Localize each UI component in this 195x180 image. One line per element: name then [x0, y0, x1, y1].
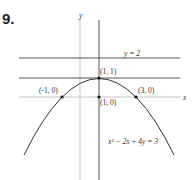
point-3-0	[134, 95, 137, 98]
point-neg1-0	[60, 95, 63, 98]
graph: y x y = 2 (1, 1) (-1, 0) (1, 0) (3, 0) x…	[0, 0, 195, 180]
vertex-point	[97, 76, 100, 79]
point-label-3-0: (3, 0)	[138, 86, 155, 95]
vertex-label: (1, 1)	[100, 67, 117, 76]
x-axis-label: x	[182, 93, 187, 102]
equation-label: x² − 2x + 4y = 3	[107, 137, 158, 146]
line-label-y2: y = 2	[123, 49, 140, 58]
y-axis-label: y	[78, 11, 83, 20]
point-label-neg1-0: (-1, 0)	[39, 86, 58, 95]
focus-label: (1, 0)	[100, 98, 117, 107]
